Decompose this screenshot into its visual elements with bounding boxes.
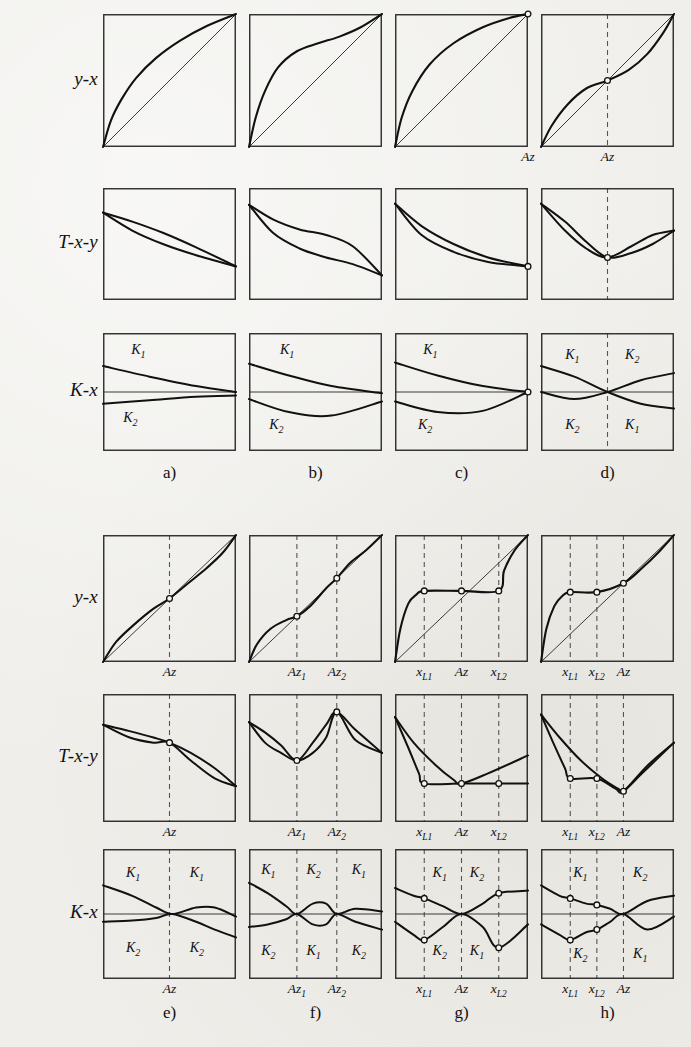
k-curve-label: K2 bbox=[190, 940, 204, 958]
k-curve-label: K2 bbox=[565, 417, 579, 435]
plot-yx-b bbox=[249, 14, 382, 147]
panel-label-g: g) bbox=[395, 1003, 528, 1023]
plot-txy-d bbox=[541, 188, 674, 300]
plot-txy-c bbox=[395, 188, 528, 300]
plot-txy-h bbox=[541, 694, 674, 822]
k-curve-label: K1 bbox=[573, 865, 587, 883]
plot-txy-f bbox=[249, 694, 382, 822]
axis-tick-label: Az bbox=[153, 664, 187, 680]
row-label-T-x-y: T-x-y bbox=[18, 231, 98, 253]
axis-tick-label: Az bbox=[153, 824, 187, 840]
plot-yx-e bbox=[103, 535, 236, 662]
plot-yx-a bbox=[103, 14, 236, 147]
k-curve-label: K1 bbox=[625, 417, 639, 435]
vle-diagram-figure: K1K2a)K1K2b)AzK1K2c)AzK1K2K2K1d)y-xT-x-y… bbox=[0, 0, 691, 1047]
plot-kx-a bbox=[103, 333, 236, 451]
axis-tick-label: Az bbox=[606, 824, 640, 840]
k-curve-label: K1 bbox=[433, 865, 447, 883]
plot-kx-d bbox=[541, 333, 674, 451]
plot-txy-g bbox=[395, 694, 528, 822]
k-curve-label: K2 bbox=[352, 943, 366, 961]
k-curve-label: K1 bbox=[633, 946, 647, 964]
plot-yx-h bbox=[541, 535, 674, 662]
k-curve-label: K2 bbox=[261, 943, 275, 961]
panel-label-c: c) bbox=[395, 463, 528, 483]
panel-label-e: e) bbox=[103, 1003, 236, 1023]
plot-kx-e bbox=[103, 849, 236, 979]
axis-tick-label: Az bbox=[606, 664, 640, 680]
plot-kx-h bbox=[541, 849, 674, 979]
k-curve-label: K2 bbox=[123, 410, 137, 428]
k-curve-label: K2 bbox=[269, 417, 283, 435]
k-curve-label: K2 bbox=[573, 946, 587, 964]
k-curve-label: K1 bbox=[307, 943, 321, 961]
k-curve-label: K2 bbox=[470, 865, 484, 883]
axis-tick-label: Az bbox=[445, 824, 479, 840]
axis-tick-label: Az bbox=[153, 981, 187, 997]
panel-label-b: b) bbox=[249, 463, 382, 483]
plot-yx-d bbox=[541, 14, 674, 147]
row-label-T-x-y: T-x-y bbox=[18, 745, 98, 767]
k-curve-label: K2 bbox=[625, 347, 639, 365]
row-label-K-x: K-x bbox=[18, 379, 98, 401]
axis-tick-label: Az2 bbox=[320, 824, 354, 842]
k-curve-label: K2 bbox=[307, 862, 321, 880]
plot-txy-b bbox=[249, 188, 382, 300]
axis-tick-label: xL1 bbox=[407, 664, 441, 682]
row-label-y-x: y-x bbox=[18, 68, 98, 90]
plot-yx-g bbox=[395, 535, 528, 662]
k-curve-label: K1 bbox=[131, 342, 145, 360]
k-curve-label: K1 bbox=[470, 943, 484, 961]
axis-tick-label: xL1 bbox=[407, 981, 441, 999]
panel-label-f: f) bbox=[249, 1003, 382, 1023]
plot-yx-c bbox=[395, 14, 528, 147]
axis-tick-label: Az1 bbox=[280, 664, 314, 682]
axis-tick-label: Az2 bbox=[320, 664, 354, 682]
k-curve-label: K1 bbox=[423, 342, 437, 360]
k-curve-label: K1 bbox=[565, 347, 579, 365]
axis-tick-label: xL2 bbox=[482, 981, 516, 999]
k-curve-label: K1 bbox=[280, 342, 294, 360]
axis-tick-label: xL1 bbox=[407, 824, 441, 842]
k-curve-label: K1 bbox=[126, 865, 140, 883]
k-curve-label: K2 bbox=[418, 417, 432, 435]
axis-tick-label: Az bbox=[445, 664, 479, 680]
axis-tick-label: Az2 bbox=[320, 981, 354, 999]
k-curve-label: K1 bbox=[261, 862, 275, 880]
axis-tick-label: xL2 bbox=[482, 664, 516, 682]
k-curve-label: K1 bbox=[190, 865, 204, 883]
k-curve-label: K2 bbox=[633, 865, 647, 883]
axis-tick-label: Az bbox=[445, 981, 479, 997]
axis-tick-label: xL2 bbox=[482, 824, 516, 842]
row-label-K-x: K-x bbox=[18, 901, 98, 923]
axis-tick-label: Az1 bbox=[280, 824, 314, 842]
axis-tick-label: Az1 bbox=[280, 981, 314, 999]
plot-yx-f bbox=[249, 535, 382, 662]
k-curve-label: K1 bbox=[352, 862, 366, 880]
axis-tick-label: Az bbox=[606, 981, 640, 997]
k-curve-label: K2 bbox=[433, 943, 447, 961]
k-curve-label: K2 bbox=[126, 940, 140, 958]
panel-label-a: a) bbox=[103, 463, 236, 483]
row-label-y-x: y-x bbox=[18, 586, 98, 608]
axis-tick-label: Az bbox=[591, 149, 625, 165]
plot-kx-g bbox=[395, 849, 528, 979]
plot-txy-a bbox=[103, 188, 236, 300]
plot-kx-c bbox=[395, 333, 528, 451]
panel-label-h: h) bbox=[541, 1003, 674, 1023]
plot-txy-e bbox=[103, 694, 236, 822]
axis-tick-label: Az bbox=[511, 149, 545, 165]
panel-label-d: d) bbox=[541, 463, 674, 483]
